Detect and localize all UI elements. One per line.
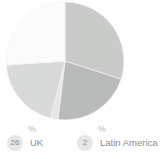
legend-item-label: Latin America bbox=[100, 135, 158, 151]
legend-row: 2 Latin America bbox=[77, 135, 158, 151]
pie-chart-widget: % 26 UK % 2 Latin America bbox=[0, 0, 164, 159]
legend-value-badge: 2 bbox=[77, 135, 93, 151]
legend-percent-symbol: % bbox=[28, 124, 36, 134]
pie-slice-group bbox=[6, 2, 124, 120]
legend-percent-symbol: % bbox=[98, 124, 106, 134]
chart-legend: % 26 UK % 2 Latin America bbox=[0, 124, 164, 159]
legend-item-label: UK bbox=[30, 135, 43, 151]
pie-chart-svg bbox=[0, 0, 164, 124]
legend-row: 26 UK bbox=[7, 135, 43, 151]
pie-slice[interactable] bbox=[6, 2, 65, 65]
legend-value-badge: 26 bbox=[7, 135, 23, 151]
pie-chart-area bbox=[0, 0, 164, 124]
